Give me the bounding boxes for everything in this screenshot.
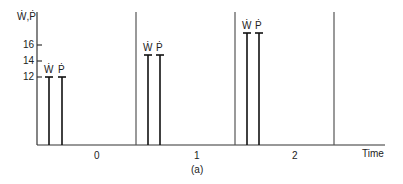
x-tick-label-1: 1 [194,151,200,161]
x-tick-label-0: 0 [94,151,100,161]
spike-label-p-1: Ṗ [156,43,163,53]
spike-label-w-1: Ẇ [143,43,152,53]
y-tick-label-12: 12 [23,72,34,82]
figure-caption: (a) [191,165,203,175]
spike-label-w-0: Ẇ [44,65,53,75]
y-tick-label-14: 14 [23,56,34,66]
y-axis-label: Ẇ,Ṗ [17,12,36,22]
chart-canvas [0,0,403,184]
y-tick-label-16: 16 [23,40,34,50]
spike-label-p-2: Ṗ [255,21,262,31]
x-tick-label-2: 2 [292,151,298,161]
spike-label-w-2: Ẇ [242,21,251,31]
spike-label-p-0: Ṗ [58,65,65,75]
x-axis-label: Time [362,149,384,159]
